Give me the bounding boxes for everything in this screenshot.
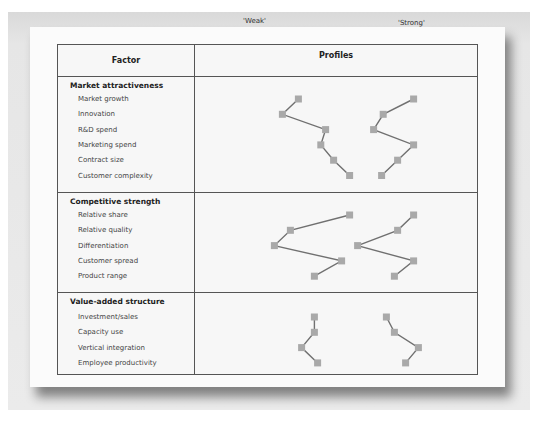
factor-label: Market growth (78, 95, 129, 103)
section-title: Value-added structure (70, 297, 165, 306)
factor-header: Factor (58, 45, 194, 76)
factor-label: R&D spend (78, 126, 117, 134)
profile-table: Factor Profiles (57, 44, 478, 375)
factor-label: Customer complexity (78, 172, 153, 180)
factor-label: Product range (78, 272, 127, 280)
section-title: Market attractiveness (70, 81, 163, 90)
factor-label: Contract size (78, 156, 124, 164)
factor-label: Marketing spend (78, 141, 136, 149)
factor-label: Innovation (78, 110, 115, 118)
factor-label: Investment/sales (78, 313, 138, 321)
strong-profile-label: 'Strong' (398, 19, 425, 27)
section-divider (58, 292, 477, 293)
factor-label: Capacity use (78, 328, 123, 336)
factor-label: Relative share (78, 211, 128, 219)
header-divider (58, 76, 477, 77)
section-title: Competitive strength (70, 197, 160, 206)
factor-label: Employee productivity (78, 359, 157, 367)
weak-profile-label: 'Weak' (243, 17, 266, 25)
factor-label: Differentiation (78, 242, 128, 250)
factor-label: Vertical integration (78, 344, 145, 352)
factor-label: Customer spread (78, 257, 138, 265)
factor-label: Relative quality (78, 226, 132, 234)
section-divider (58, 192, 477, 193)
profiles-header: Profiles (195, 51, 477, 60)
column-divider (194, 45, 195, 374)
